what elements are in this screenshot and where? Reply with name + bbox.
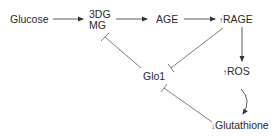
node-age: AGE [156, 14, 178, 25]
node-rage: ↑RAGE [219, 14, 253, 26]
rage-label: RAGE [223, 13, 253, 25]
inhibit-glo1-to-mg [105, 37, 141, 68]
inhibit-bar-glo1-top [168, 64, 174, 72]
inhibit-glutathione-to-glo1 [164, 88, 212, 122]
inhibit-rage-to-glo1 [171, 28, 223, 68]
glutathione-label: Glutathione [215, 119, 269, 131]
node-mg: MG [89, 20, 106, 31]
node-ros: ↑ROS [223, 66, 250, 78]
ros-label: ROS [227, 65, 250, 77]
node-glucose: Glucose [10, 14, 49, 25]
arrow-ros-to-glutathione [241, 89, 247, 114]
inhibit-bar-glo1-bottom [161, 84, 167, 92]
node-glo1: Glo1 [143, 71, 165, 82]
node-glutathione: ↓Glutathione [211, 120, 269, 132]
